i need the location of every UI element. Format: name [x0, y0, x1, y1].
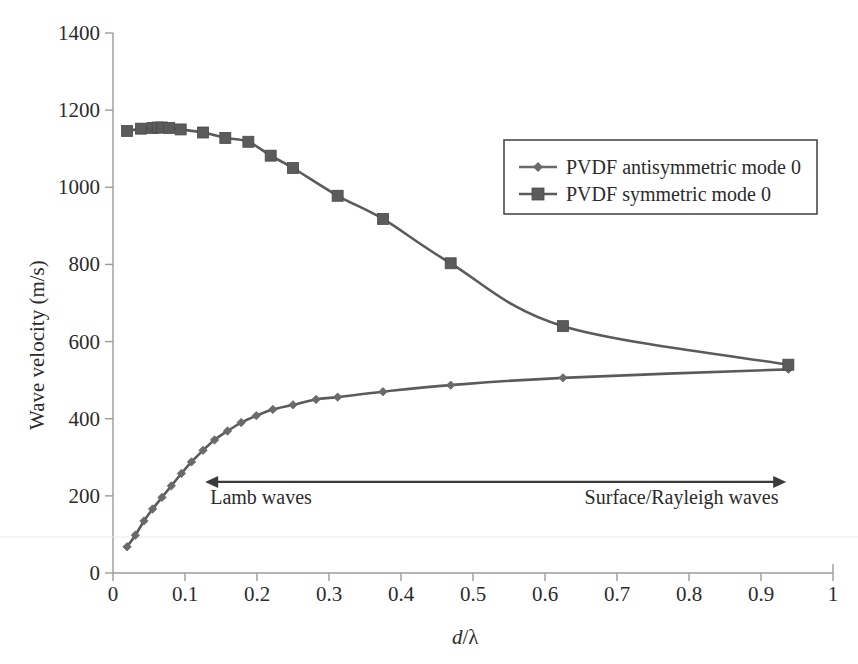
y-tick-label-600: 600 — [69, 330, 101, 354]
x-tick-label-1: 1 — [828, 582, 839, 606]
x-tick-label-0.2: 0.2 — [244, 582, 270, 606]
data-point-symmetric-5 — [164, 122, 175, 133]
legend-label-symmetric: PVDF symmetric mode 0 — [566, 183, 771, 206]
x-tick-label-0: 0 — [108, 582, 119, 606]
y-tick-label-400: 400 — [69, 407, 101, 431]
data-point-symmetric-11 — [288, 163, 299, 174]
data-point-symmetric-16 — [783, 359, 794, 370]
y-tick-label-1400: 1400 — [58, 21, 100, 45]
x-tick-label-0.3: 0.3 — [316, 582, 342, 606]
x-axis-title-italic-part: d — [452, 625, 463, 649]
data-point-symmetric-15 — [558, 321, 569, 332]
y-tick-label-800: 800 — [69, 252, 101, 276]
x-tick-label-0.9: 0.9 — [748, 582, 774, 606]
y-tick-label-0: 0 — [90, 561, 101, 585]
chart-background — [0, 0, 858, 664]
surface-rayleigh-waves-annotation: Surface/Rayleigh waves — [585, 486, 779, 509]
chart-legend[interactable]: PVDF antisymmetric mode 0 PVDF symmetric… — [504, 140, 817, 214]
x-tick-label-0.1: 0.1 — [172, 582, 198, 606]
data-point-symmetric-6 — [175, 124, 186, 135]
y-tick-label-1000: 1000 — [58, 175, 100, 199]
data-point-symmetric-13 — [378, 213, 389, 224]
data-point-symmetric-12 — [332, 190, 343, 201]
cut-off-caption-artifact — [0, 654, 858, 664]
y-tick-label-200: 200 — [69, 484, 101, 508]
lamb-waves-annotation: Lamb waves — [210, 486, 312, 508]
wave-velocity-dispersion-chart: 0200400600800100012001400 00.10.20.30.40… — [0, 0, 858, 664]
legend-label-antisymmetric: PVDF antisymmetric mode 0 — [566, 156, 801, 179]
square-marker-icon — [532, 188, 544, 200]
data-point-symmetric-0 — [122, 125, 133, 136]
x-tick-label-0.5: 0.5 — [460, 582, 486, 606]
y-tick-label-1200: 1200 — [58, 98, 100, 122]
x-tick-label-0.7: 0.7 — [604, 582, 630, 606]
x-axis-title: d/λ — [452, 625, 479, 649]
x-axis-title-rest-part: /λ — [463, 625, 480, 649]
x-tick-label-0.8: 0.8 — [676, 582, 702, 606]
data-point-symmetric-8 — [220, 132, 231, 143]
y-axis-title: Wave velocity (m/s) — [25, 260, 49, 430]
data-point-symmetric-10 — [265, 150, 276, 161]
data-point-symmetric-9 — [243, 136, 254, 147]
x-tick-label-0.4: 0.4 — [388, 582, 415, 606]
data-point-symmetric-7 — [198, 127, 209, 138]
data-point-symmetric-14 — [445, 258, 456, 269]
data-point-symmetric-1 — [136, 123, 147, 134]
figure-container: 0200400600800100012001400 00.10.20.30.40… — [0, 0, 858, 664]
x-tick-label-0.6: 0.6 — [532, 582, 558, 606]
